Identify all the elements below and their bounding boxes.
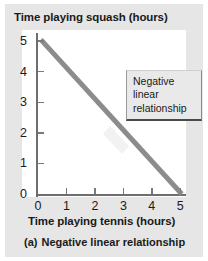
figure-caption: (a)Negative linear relationship [24,236,185,248]
caption-text: Negative linear relationship [41,236,185,248]
y-axis-title: Time playing squash (hours) [14,11,168,23]
x-axis-tick-label: 5 [177,200,184,213]
x-axis-tick [180,188,182,194]
y-axis-tick [38,163,44,165]
caption-label: (a) [24,236,37,248]
y-axis-tick [38,102,44,104]
bottom-margin [0,257,208,261]
callout-line-1: Negative [133,75,196,88]
x-axis-tick-label: 2 [91,200,98,213]
x-axis-tick [66,188,68,194]
x-axis-tick [151,188,153,194]
plot-area: Negative linear relationship 012345 [22,30,186,197]
top-margin [0,0,208,4]
x-axis-tick-label: 1 [63,200,70,213]
figure-panel: Time playing squash (hours) Negative lin… [0,0,208,261]
annotation-callout: Negative linear relationship [126,70,202,121]
x-axis-tick-label: 4 [148,200,155,213]
x-axis-title: Time playing tennis (hours) [28,215,175,227]
y-axis-tick [38,40,44,42]
y-axis-tick [38,132,44,134]
x-axis-tick [94,188,96,194]
x-axis-tick-label: 3 [120,200,127,213]
callout-line-3: relationship [133,102,196,115]
y-axis-tick [38,71,44,73]
callout-line-2: linear [133,88,196,101]
x-axis-tick [123,188,125,194]
x-axis-tick-label: 0 [35,200,42,213]
